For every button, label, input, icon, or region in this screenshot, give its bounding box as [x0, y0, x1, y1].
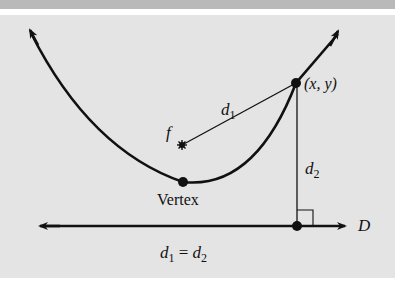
vertex-label: Vertex — [157, 191, 199, 208]
parabola-curve — [31, 33, 338, 183]
focus-star-icon — [177, 140, 187, 150]
directrix-label: D — [357, 216, 371, 235]
focus-label: f — [166, 123, 173, 142]
parabola-diagram: f d1 (x, y) d2 Vertex D d1 = d2 — [0, 0, 409, 284]
vertex-dot — [178, 177, 188, 187]
d2-label: d2 — [305, 159, 320, 181]
right-arrow-icon — [330, 31, 338, 46]
point-xy-dot — [291, 78, 301, 88]
left-arrow-icon — [30, 30, 38, 45]
equation-label: d1 = d2 — [160, 243, 207, 265]
foot-dot — [292, 221, 302, 231]
d1-segment — [182, 83, 296, 145]
point-xy-label: (x, y) — [304, 75, 337, 93]
d1-label: d1 — [221, 100, 236, 122]
